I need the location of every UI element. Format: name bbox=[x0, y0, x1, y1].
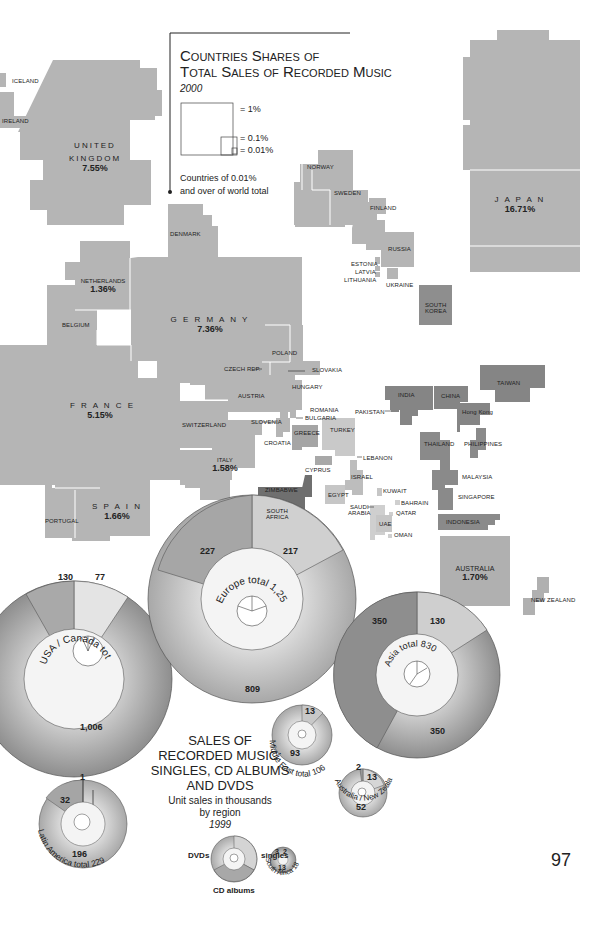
label-thailand: THAILAND bbox=[424, 441, 454, 447]
latam-single-value: 1 bbox=[80, 772, 85, 782]
label-finland: FINLAND bbox=[370, 205, 396, 211]
aunz-dvd-value: 2 bbox=[356, 762, 361, 772]
label-switzerland: SWITZERLAND bbox=[182, 422, 226, 428]
label-indonesia: INDONESIA bbox=[446, 519, 480, 525]
safrica-cd-value: 13 bbox=[278, 864, 286, 871]
skorea-2: KOREA bbox=[425, 308, 447, 314]
label-zimbabwe: ZIMBABWE bbox=[265, 487, 298, 493]
latam-cd-value: 196 bbox=[72, 849, 87, 859]
europe-single-value: 217 bbox=[283, 546, 298, 556]
asia-dvd-value: 350 bbox=[372, 616, 387, 626]
sales-sub-2: by region bbox=[150, 807, 290, 819]
sales-year: 1999 bbox=[150, 819, 290, 831]
label-singapore: SINGAPORE bbox=[458, 494, 495, 500]
usa-single-value: 77 bbox=[95, 572, 105, 582]
europe-cd-value: 809 bbox=[245, 684, 260, 694]
label-france: F R A N C E 5.15% bbox=[70, 401, 130, 420]
label-south-africa: SOUTH AFRICA bbox=[266, 508, 289, 520]
legend-note-1: Countries of 0.01% bbox=[180, 173, 257, 183]
japan-name: J A P A N bbox=[490, 195, 550, 204]
aunz-cd-value: 52 bbox=[356, 802, 366, 812]
label-spain: S P A I N 1.66% bbox=[92, 502, 142, 521]
label-denmark: DENMARK bbox=[170, 231, 201, 237]
donut-usa-canada bbox=[0, 581, 172, 777]
label-poland: POLAND bbox=[272, 350, 297, 356]
legend-cd-albums: CD albums bbox=[213, 886, 255, 895]
label-oman: OMAN bbox=[394, 532, 412, 538]
label-kuwait: KUWAIT bbox=[383, 488, 407, 494]
legend-singles: singles bbox=[261, 851, 289, 860]
label-bulgaria: BULGARIA bbox=[305, 415, 336, 421]
label-taiwan: TAIWAN bbox=[497, 380, 520, 386]
label-japan: J A P A N 16.71% bbox=[490, 195, 550, 214]
sales-title-1: SALES OF bbox=[150, 733, 290, 748]
label-philippines: PHILIPPINES bbox=[464, 441, 502, 447]
label-iceland: ICELAND bbox=[12, 78, 39, 84]
label-saudi: SAUDI ARABIA bbox=[348, 504, 371, 516]
sales-subtitle: Unit sales in thousands by region 1999 bbox=[150, 795, 290, 831]
label-israel: ISRAEL bbox=[351, 474, 373, 480]
cartogram-map: USA / Canada total 1,213 Europe total 1,… bbox=[0, 0, 603, 926]
label-uk: UNITED KINGDOM 7.55% bbox=[60, 141, 130, 173]
asia-cd-value: 350 bbox=[430, 726, 445, 736]
germany-name: G E R M A N Y bbox=[170, 315, 250, 324]
map-title: Countries Shares of Total Sales of Recor… bbox=[180, 48, 392, 80]
sales-title-3: SINGLES, CD ALBUMS bbox=[150, 763, 290, 778]
label-netherlands: NETHERLANDS 1.36% bbox=[78, 278, 128, 294]
label-malaysia: MALAYSIA bbox=[462, 474, 492, 480]
label-slovakia: SLOVAKIA bbox=[312, 367, 342, 373]
label-norway: NORWAY bbox=[307, 164, 334, 170]
map-title-line2: Total Sales of Recorded Music bbox=[180, 64, 392, 80]
donut-asia bbox=[333, 592, 500, 758]
france-name: F R A N C E bbox=[70, 401, 130, 410]
label-latvia: LATVIA bbox=[355, 269, 376, 275]
label-russia: RUSSIA bbox=[388, 246, 411, 252]
label-new-zealand: NEW ZEALAND bbox=[531, 597, 575, 603]
page-number: 97 bbox=[551, 850, 571, 871]
asia-single-value: 130 bbox=[430, 616, 445, 626]
japan-pct: 16.71% bbox=[490, 204, 550, 214]
nl-pct: 1.36% bbox=[78, 284, 128, 294]
label-pakistan: PAKISTAN bbox=[355, 409, 385, 415]
label-italy: ITALY 1.58% bbox=[205, 457, 245, 473]
label-greece: GREECE bbox=[294, 430, 320, 436]
label-qatar: QATAR bbox=[396, 510, 416, 516]
label-egypt: EGYPT bbox=[328, 492, 349, 498]
uk-name1: UNITED bbox=[60, 141, 130, 150]
sales-sub-1: Unit sales in thousands bbox=[150, 795, 290, 807]
legend-001pct: = 0.01% bbox=[240, 145, 273, 155]
label-hungary: HUNGARY bbox=[292, 384, 323, 390]
australia-name: AUSTRALIA bbox=[450, 565, 500, 572]
sales-title-4: AND DVDS bbox=[150, 778, 290, 793]
usa-cd-value: 1,006 bbox=[80, 722, 103, 732]
legend-01pct: = 0.1% bbox=[240, 133, 268, 143]
donut-europe bbox=[148, 495, 356, 703]
label-germany: G E R M A N Y 7.36% bbox=[170, 315, 250, 334]
italy-pct: 1.58% bbox=[205, 463, 245, 473]
uk-name2: KINGDOM bbox=[60, 154, 130, 163]
mideast-single-value: 13 bbox=[305, 706, 315, 716]
label-slovenia: SLOVENIA bbox=[251, 419, 282, 425]
map-title-line1: Countries Shares of bbox=[180, 48, 392, 64]
spain-pct: 1.66% bbox=[92, 511, 142, 521]
label-croatia: CROATIA bbox=[264, 440, 291, 446]
donut-legend bbox=[211, 836, 257, 882]
label-estonia: ESTONIA bbox=[351, 261, 378, 267]
label-lithuania: LITHUANIA bbox=[344, 277, 376, 283]
label-china: CHINA bbox=[441, 393, 460, 399]
label-portugal: PORTUGAL bbox=[45, 518, 79, 524]
label-ireland: IRELAND bbox=[2, 118, 29, 124]
map-year: 2000 bbox=[180, 83, 202, 94]
label-romania: ROMANIA bbox=[310, 407, 339, 413]
label-czech: CZECH REP. bbox=[224, 366, 261, 372]
safrica-2: AFRICA bbox=[266, 514, 289, 520]
aunz-single-value: 13 bbox=[367, 772, 377, 782]
label-hong-kong: Hong Kong bbox=[462, 409, 493, 415]
saudi-2: ARABIA bbox=[348, 510, 371, 516]
australia-pct: 1.70% bbox=[450, 572, 500, 582]
europe-dvd-value: 227 bbox=[200, 546, 215, 556]
latam-dvd-value: 32 bbox=[60, 795, 70, 805]
label-south-korea: SOUTH KOREA bbox=[425, 302, 447, 314]
label-uae: UAE bbox=[379, 521, 392, 527]
label-australia: AUSTRALIA 1.70% bbox=[450, 565, 500, 582]
